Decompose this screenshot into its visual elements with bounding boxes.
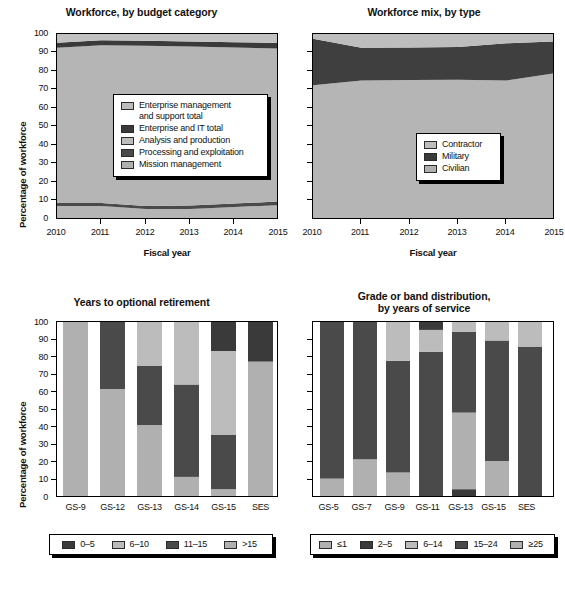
- legend-label: 6–14: [423, 539, 445, 550]
- legend-label-cont: and support total: [139, 111, 234, 122]
- legend-item[interactable]: Analysis and production: [121, 135, 260, 146]
- legend-swatch-icon: [424, 141, 437, 149]
- legend-swatch-icon: [112, 541, 125, 549]
- legend-swatch-icon: [121, 149, 134, 157]
- legend-label: 0–5: [80, 539, 97, 550]
- legend-retirement: 0–5 6–10 11–15 >15: [49, 534, 273, 555]
- legend-label: Civilian: [442, 163, 472, 174]
- bar-stack: [452, 322, 476, 497]
- legend-item[interactable]: 11–15: [166, 539, 210, 550]
- plot-area-workforce-mix: 2010 2011 2012 2013 2014 2015 Fiscal yea…: [283, 0, 565, 260]
- legend-swatch-icon: [121, 102, 134, 110]
- legend-label: >15: [242, 539, 260, 550]
- legend-label: Enterprise and IT total: [139, 123, 226, 134]
- x-axis-label-budget-category: Fiscal year: [56, 247, 278, 258]
- legend-label: ≥25: [528, 539, 545, 550]
- chart-grade-band-distribution: Grade or band distribution, by years of …: [283, 290, 565, 591]
- legend-label: ≤1: [337, 539, 350, 550]
- legend-swatch-icon: [166, 541, 179, 549]
- legend-swatch-icon: [405, 541, 418, 549]
- bar-stack: [174, 322, 199, 497]
- legend-swatch-icon: [121, 161, 134, 169]
- chart-years-to-optional-retirement: Years to optional retirement Percentage …: [0, 290, 283, 591]
- legend-item[interactable]: >15: [224, 539, 260, 550]
- legend-swatch-icon: [121, 125, 134, 133]
- bar-stack: [353, 322, 377, 497]
- bar-stack: [485, 322, 509, 497]
- legend-item[interactable]: 6–10: [112, 539, 152, 550]
- legend-swatch-icon: [319, 541, 332, 549]
- legend-item[interactable]: ≥25: [510, 539, 545, 550]
- bar-stack: [320, 322, 344, 497]
- bar-stack: [63, 322, 88, 497]
- plot-box-workforce-mix: [312, 33, 554, 219]
- legend-label: 11–15: [184, 539, 210, 550]
- legend-item[interactable]: Processing and exploitation: [121, 147, 260, 158]
- legend-label: Mission management: [139, 159, 224, 170]
- bars-grade-band: [313, 322, 554, 497]
- legend-label: Military: [442, 151, 472, 162]
- bar-stack: [518, 322, 542, 497]
- legend-item[interactable]: 15–24: [455, 539, 500, 550]
- bar-stack: [137, 322, 162, 497]
- legend-item[interactable]: ≤1: [319, 539, 350, 550]
- plot-area-retirement: 100 90 80 70 60 50 40 30 20 10 0: [0, 290, 283, 550]
- bar-stack: [100, 322, 125, 497]
- legend-budget-category: Enterprise management and support total …: [113, 94, 268, 177]
- legend-item[interactable]: Contractor: [424, 139, 493, 150]
- x-axis-label-workforce-mix: Fiscal year: [312, 247, 554, 258]
- plot-area-grade-band: GS-5 GS-7 GS-9 GS-11 GS-13 GS-15 SES ≤1 …: [283, 290, 565, 550]
- bar-stack: [419, 322, 443, 497]
- bar-stack: [386, 322, 410, 497]
- area-series-workforce-mix: [313, 34, 554, 219]
- legend-item[interactable]: 2–5: [360, 539, 395, 550]
- plot-area-budget-category: 100 90 80 70 60 50 40 30 20 10 0: [0, 0, 283, 260]
- plot-box-retirement: [56, 321, 278, 497]
- legend-grade-band: ≤1 2–5 6–14 15–24 ≥25: [310, 534, 555, 555]
- bar-stack: [248, 322, 273, 497]
- legend-swatch-icon: [360, 541, 373, 549]
- legend-label: Analysis and production: [139, 135, 233, 146]
- legend-label: 2–5: [378, 539, 395, 550]
- legend-swatch-icon: [510, 541, 523, 549]
- legend-label: 15–24: [473, 539, 500, 550]
- legend-item[interactable]: Enterprise management and support total: [121, 100, 260, 122]
- legend-item[interactable]: Mission management: [121, 159, 260, 170]
- legend-label: Contractor: [442, 139, 485, 150]
- legend-swatch-icon: [121, 137, 134, 145]
- legend-item[interactable]: Civilian: [424, 163, 493, 174]
- plot-box-grade-band: [312, 321, 554, 497]
- legend-label: Enterprise management: [139, 100, 234, 111]
- legend-workforce-mix: Contractor Military Civilian: [416, 133, 501, 181]
- legend-swatch-icon: [62, 541, 75, 549]
- legend-swatch-icon: [224, 541, 237, 549]
- legend-swatch-icon: [424, 153, 437, 161]
- legend-swatch-icon: [424, 165, 437, 173]
- chart-workforce-budget-category: Workforce, by budget category Percentage…: [0, 0, 283, 290]
- legend-item[interactable]: Enterprise and IT total: [121, 123, 260, 134]
- legend-label: 6–10: [130, 539, 152, 550]
- chart-workforce-mix-type: Workforce mix, by type: [283, 0, 565, 290]
- legend-swatch-icon: [455, 541, 468, 549]
- bars-retirement: [57, 322, 278, 497]
- legend-item[interactable]: Military: [424, 151, 493, 162]
- legend-item[interactable]: 0–5: [62, 539, 97, 550]
- bar-stack: [211, 322, 236, 497]
- legend-label: Processing and exploitation: [139, 147, 247, 158]
- legend-item[interactable]: 6–14: [405, 539, 445, 550]
